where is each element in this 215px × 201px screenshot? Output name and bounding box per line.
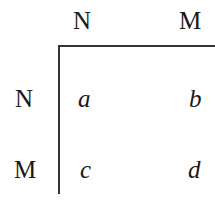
- header-rule: [59, 45, 215, 47]
- cell-m-m: d: [188, 157, 201, 182]
- row-header-m: M: [14, 157, 36, 182]
- row-header-rule: [58, 45, 60, 194]
- row-header-n: N: [15, 86, 33, 111]
- cell-m-n: c: [80, 157, 91, 182]
- column-header-n: N: [73, 8, 91, 33]
- cell-n-m: b: [189, 86, 202, 111]
- cell-n-n: a: [78, 86, 91, 111]
- column-header-m: M: [179, 8, 201, 33]
